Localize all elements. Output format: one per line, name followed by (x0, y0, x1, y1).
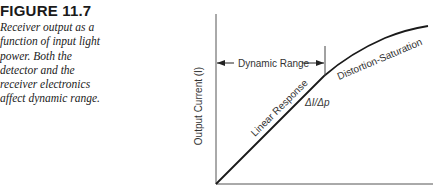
y-axis-label: Output Current (I) (193, 67, 204, 145)
linear-response-label: Linear Response (249, 77, 311, 139)
receiver-output-diagram: Dynamic Range Output Current (I) Linear … (0, 0, 433, 194)
slope-label: ΔI/Δp (304, 97, 330, 108)
dynamic-range-label: Dynamic Range (238, 58, 310, 69)
distortion-saturation-label: Distortion-Saturation (335, 36, 423, 82)
